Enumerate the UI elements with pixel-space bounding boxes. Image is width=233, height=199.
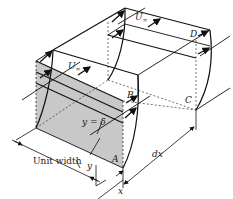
point-b-label: B <box>127 91 134 100</box>
diagram-canvas <box>0 0 233 199</box>
dx-label: dx <box>152 150 163 159</box>
point-c-label: C <box>185 96 192 105</box>
unit-width-label: Unit width <box>33 157 82 166</box>
y-axis-label: y <box>87 162 92 171</box>
u-infinity-top-label: U∞ <box>135 13 148 23</box>
point-d-label: D <box>190 30 197 39</box>
delta-equation-label: y = δ <box>82 118 106 127</box>
control-volume-diagram: U∞ U∞ D B C A y = δ Unit width dx y x <box>0 0 233 199</box>
y-axis <box>96 165 106 186</box>
point-a-label: A <box>112 155 119 164</box>
u-infinity-front-label: U∞ <box>68 62 81 72</box>
x-axis-label: x <box>118 187 123 196</box>
